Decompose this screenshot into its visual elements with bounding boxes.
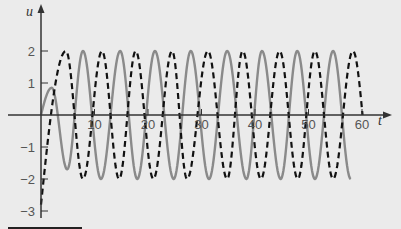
- x-tick-label: 30: [194, 117, 208, 132]
- x-axis-arrow-icon: [383, 112, 392, 119]
- y-tick-label: 2: [28, 44, 35, 59]
- y-tick-label: 1: [28, 76, 35, 91]
- y-axis-label: u: [26, 4, 33, 19]
- x-tick-label: 20: [141, 117, 155, 132]
- y-axis: [38, 4, 45, 218]
- x-tick-label: 50: [301, 117, 315, 132]
- x-tick-label: 10: [87, 117, 101, 132]
- y-tick-label: −2: [20, 172, 35, 187]
- y-axis-arrow-icon: [38, 4, 45, 13]
- x-tick-label: 60: [355, 117, 369, 132]
- y-tick-label: −3: [20, 204, 35, 219]
- y-tick-label: −1: [20, 140, 35, 155]
- chart: 10203040506021−1−2−3 u t: [0, 0, 401, 229]
- x-tick-label: 40: [248, 117, 262, 132]
